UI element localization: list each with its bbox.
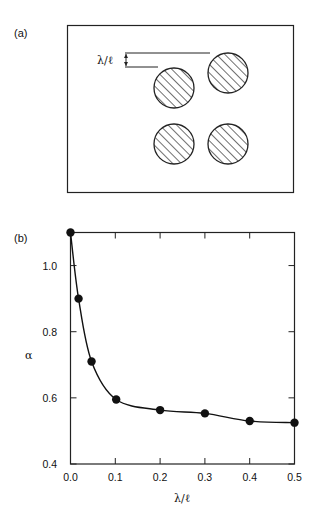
axis-ticks: [71, 233, 295, 465]
fit-curve: [71, 233, 295, 423]
arrowhead-up-icon: [124, 54, 128, 58]
panel-a-frame: [68, 26, 294, 193]
x-tick-label: 0.3: [198, 471, 213, 483]
data-points: [66, 228, 298, 427]
y-axis-label: α: [25, 349, 33, 362]
x-tick-label: 0.1: [108, 471, 123, 483]
data-point: [246, 417, 254, 425]
x-tick-label: 0.5: [287, 471, 302, 483]
panel-a-label: (a): [14, 27, 27, 39]
panel-b-label: (b): [14, 232, 27, 244]
data-point: [66, 228, 74, 236]
arrowhead-down-icon: [124, 62, 128, 66]
panel-b: (b) 0.00.10.20.30.40.50.40.60.81.0 α λ/ℓ: [14, 228, 302, 505]
y-tick-label: 0.4: [42, 458, 57, 470]
hatched-circle: [208, 124, 248, 164]
hatched-circle: [154, 124, 194, 164]
data-point: [74, 294, 82, 302]
y-tick-label: 0.8: [42, 326, 57, 338]
y-tick-label: 0.6: [42, 392, 57, 404]
figure: (a) λ/ℓ (b) 0.00.10.20.30.40.50.40.60.81…: [0, 0, 316, 522]
plot-frame: [71, 233, 295, 465]
data-point: [112, 395, 120, 403]
panel-a: (a) λ/ℓ: [14, 26, 294, 193]
dimension-label: λ/ℓ: [97, 54, 113, 67]
x-tick-label: 0.2: [153, 471, 168, 483]
x-tick-label: 0.4: [242, 471, 257, 483]
hatched-circle: [154, 68, 194, 108]
data-point: [290, 418, 298, 426]
x-tick-label: 0.0: [63, 471, 78, 483]
hatched-circle: [208, 53, 248, 93]
y-tick-label: 1.0: [42, 260, 57, 272]
data-point: [201, 409, 209, 417]
hatched-circles: [154, 53, 248, 164]
tick-labels: 0.00.10.20.30.40.50.40.60.81.0: [42, 260, 302, 483]
x-axis-label: λ/ℓ: [174, 492, 190, 505]
data-point: [87, 357, 95, 365]
data-point: [156, 406, 164, 414]
